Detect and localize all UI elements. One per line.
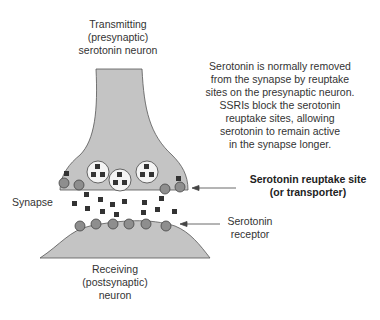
synapse-diagram: [0, 0, 380, 320]
reuptake-label-line: (or transporter): [238, 186, 378, 199]
presynaptic-label-line: (presynaptic): [68, 31, 168, 44]
synapse-label: Synapse: [12, 196, 62, 209]
explanation-line: sites on the presynaptic neuron.: [180, 86, 380, 99]
postsynaptic-label: Receiving (postsynaptic) neuron: [70, 263, 160, 302]
postsynaptic-label-line: Receiving: [70, 263, 160, 276]
receptor-label-line: Serotonin: [220, 215, 280, 228]
receptor-label-line: receptor: [220, 228, 280, 241]
postsynaptic-label-line: (postsynaptic): [70, 276, 160, 289]
presynaptic-label-line: Transmitting: [68, 18, 168, 31]
explanation-text: Serotonin is normally removed from the s…: [180, 60, 380, 151]
presynaptic-label-line: serotonin neuron: [68, 44, 168, 57]
postsynaptic-label-line: neuron: [70, 289, 160, 302]
explanation-line: serotonin to remain active: [180, 125, 380, 138]
presynaptic-label: Transmitting (presynaptic) serotonin neu…: [68, 18, 168, 57]
explanation-line: SSRIs block the serotonin: [180, 99, 380, 112]
explanation-line: from the synapse by reuptake: [180, 73, 380, 86]
explanation-line: Serotonin is normally removed: [180, 60, 380, 73]
reuptake-label-line: Serotonin reuptake site: [238, 173, 378, 186]
reuptake-site-label: Serotonin reuptake site (or transporter): [238, 173, 378, 199]
explanation-line: in the synapse longer.: [180, 138, 380, 151]
receptor-label: Serotonin receptor: [220, 215, 280, 241]
explanation-line: reuptake sites, allowing: [180, 112, 380, 125]
